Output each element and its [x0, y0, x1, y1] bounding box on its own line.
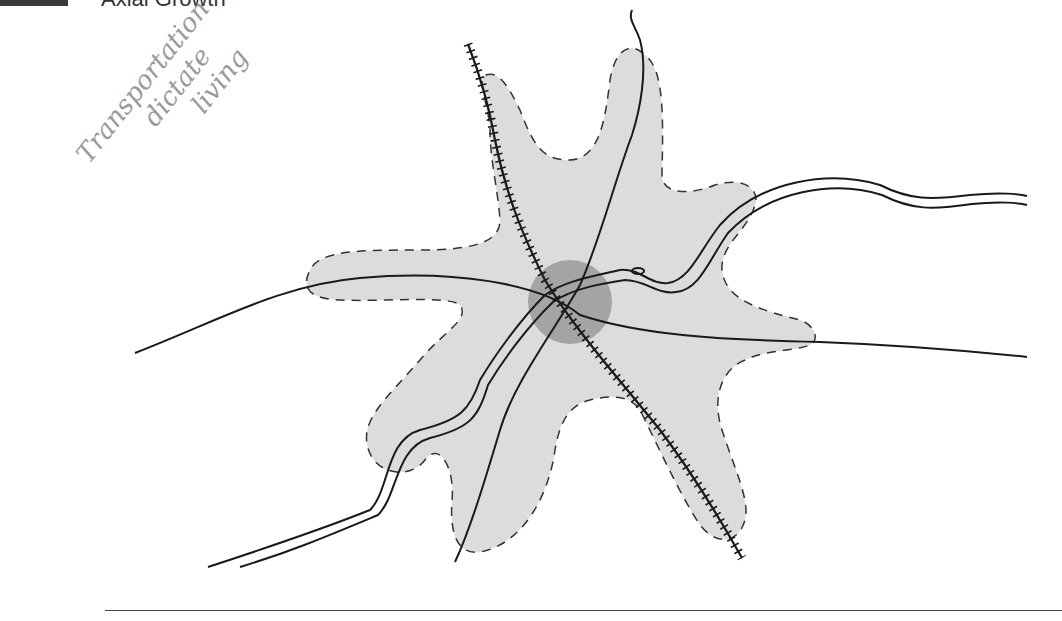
bottom-rule [105, 610, 1062, 611]
